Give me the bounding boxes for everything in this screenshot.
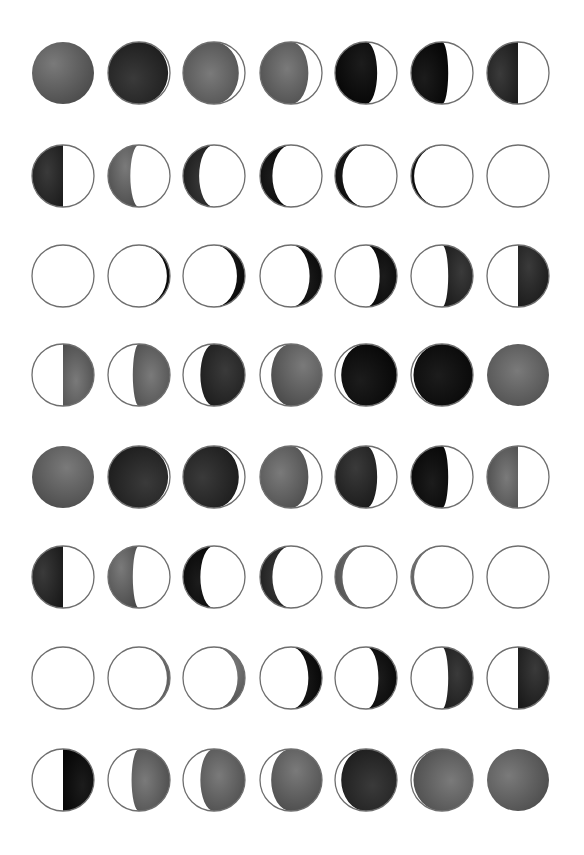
moon-phase — [30, 40, 96, 106]
moon-phase — [181, 645, 247, 711]
moon-icon — [106, 40, 172, 106]
moon-phase — [258, 645, 324, 711]
moon-phase — [106, 544, 172, 610]
moon-icon — [181, 342, 247, 408]
moon-icon — [181, 40, 247, 106]
moon-phase — [258, 342, 324, 408]
moon-icon — [30, 40, 96, 106]
moon-phase — [30, 544, 96, 610]
moon-phase — [409, 143, 475, 209]
moon-icon — [258, 645, 324, 711]
moon-icon — [409, 444, 475, 510]
moon-icon — [30, 444, 96, 510]
moon-icon — [106, 444, 172, 510]
moon-phase — [333, 243, 399, 309]
moon-icon — [181, 747, 247, 813]
moon-icon — [30, 342, 96, 408]
moon-icon — [409, 544, 475, 610]
moon-phase — [106, 444, 172, 510]
moon-phase — [333, 444, 399, 510]
moon-phase — [333, 645, 399, 711]
moon-phase — [485, 143, 551, 209]
moon-phase — [333, 544, 399, 610]
moon-icon — [181, 645, 247, 711]
moon-phase — [181, 143, 247, 209]
moon-phase — [30, 342, 96, 408]
moon-icon — [485, 747, 551, 813]
moon-phase — [106, 143, 172, 209]
moon-icon — [258, 40, 324, 106]
moon-icon — [485, 444, 551, 510]
moon-phase — [333, 143, 399, 209]
moon-icon — [258, 544, 324, 610]
moon-icon — [30, 143, 96, 209]
moon-phase — [106, 342, 172, 408]
moon-phase — [30, 243, 96, 309]
moon-icon — [409, 645, 475, 711]
moon-phase — [181, 747, 247, 813]
moon-icon — [333, 444, 399, 510]
moon-phase — [485, 342, 551, 408]
moon-phase — [30, 747, 96, 813]
moon-phase — [106, 243, 172, 309]
moon-icon — [106, 243, 172, 309]
moon-icon — [485, 143, 551, 209]
moon-icon — [333, 544, 399, 610]
moon-icon — [333, 40, 399, 106]
moon-phase — [333, 747, 399, 813]
moon-phase — [106, 747, 172, 813]
moon-phase — [181, 243, 247, 309]
moon-phase — [485, 544, 551, 610]
moon-phase-grid — [0, 0, 584, 855]
moon-icon — [333, 747, 399, 813]
moon-icon — [258, 243, 324, 309]
moon-phase — [409, 444, 475, 510]
moon-phase — [258, 243, 324, 309]
moon-phase — [30, 143, 96, 209]
moon-icon — [258, 444, 324, 510]
moon-phase — [181, 40, 247, 106]
moon-phase — [409, 747, 475, 813]
moon-phase — [409, 40, 475, 106]
moon-icon — [181, 544, 247, 610]
moon-phase — [106, 645, 172, 711]
moon-phase — [30, 645, 96, 711]
moon-phase — [485, 243, 551, 309]
moon-icon — [409, 143, 475, 209]
moon-icon — [485, 243, 551, 309]
moon-icon — [485, 40, 551, 106]
moon-icon — [485, 342, 551, 408]
moon-phase — [409, 645, 475, 711]
moon-icon — [106, 747, 172, 813]
moon-icon — [106, 544, 172, 610]
moon-icon — [30, 645, 96, 711]
moon-phase — [181, 544, 247, 610]
moon-phase — [258, 544, 324, 610]
moon-phase — [409, 243, 475, 309]
moon-phase — [409, 342, 475, 408]
moon-icon — [333, 342, 399, 408]
moon-icon — [409, 342, 475, 408]
moon-icon — [333, 143, 399, 209]
moon-icon — [409, 40, 475, 106]
moon-phase — [181, 444, 247, 510]
moon-phase — [409, 544, 475, 610]
moon-icon — [181, 444, 247, 510]
moon-icon — [106, 645, 172, 711]
moon-icon — [485, 645, 551, 711]
moon-icon — [258, 342, 324, 408]
moon-phase — [485, 645, 551, 711]
moon-phase — [258, 40, 324, 106]
moon-icon — [409, 243, 475, 309]
moon-phase — [485, 444, 551, 510]
moon-icon — [333, 243, 399, 309]
moon-phase — [181, 342, 247, 408]
moon-phase — [333, 342, 399, 408]
moon-phase — [485, 747, 551, 813]
moon-phase — [30, 444, 96, 510]
moon-icon — [106, 143, 172, 209]
moon-phase — [258, 143, 324, 209]
moon-icon — [181, 143, 247, 209]
moon-icon — [258, 747, 324, 813]
moon-phase — [485, 40, 551, 106]
